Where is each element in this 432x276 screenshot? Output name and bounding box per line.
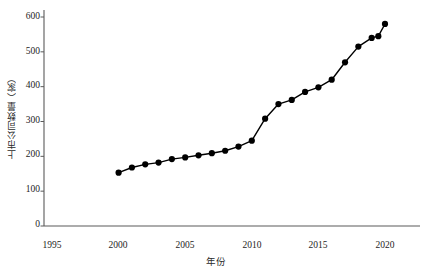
- data-point: [129, 164, 135, 170]
- data-point: [375, 33, 381, 39]
- data-point: [315, 84, 321, 90]
- data-point-group: [116, 21, 389, 176]
- data-line: [119, 24, 385, 173]
- data-point: [249, 138, 255, 144]
- data-point: [369, 35, 375, 41]
- data-point: [222, 148, 228, 154]
- data-point: [382, 21, 388, 27]
- data-point: [289, 97, 295, 103]
- data-point: [209, 150, 215, 156]
- data-point: [155, 160, 161, 166]
- data-point: [342, 59, 348, 65]
- data-point: [235, 143, 241, 149]
- chart-container: 上市公司数量（家） 600 500 400 300 200 100 0 1995…: [0, 0, 432, 276]
- data-point: [355, 44, 361, 50]
- data-point: [262, 116, 268, 122]
- data-point: [275, 101, 281, 107]
- data-point: [142, 161, 148, 167]
- data-point: [302, 89, 308, 95]
- data-point: [169, 156, 175, 162]
- data-point: [329, 77, 335, 83]
- data-point: [182, 154, 188, 160]
- plot-area: [0, 0, 432, 276]
- data-point: [195, 152, 201, 158]
- data-point: [116, 170, 122, 176]
